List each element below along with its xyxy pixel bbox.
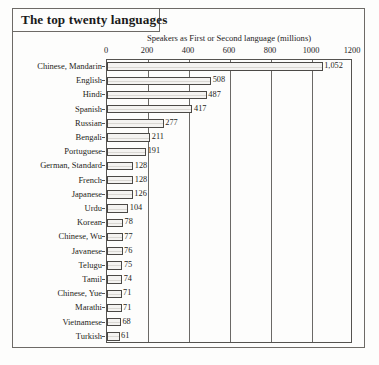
bar [107,275,122,283]
bar-hatch-line [108,194,132,195]
bar-hatch-line [108,308,121,309]
x-tick-label: 1000 [303,46,320,55]
bar-hatch-line [108,223,122,224]
x-axis-tick-labels: 020040060080010001200 [106,46,352,57]
axis-tickmark [102,123,105,124]
bar-hatch-line [108,152,145,153]
bar-row: 191 [107,145,351,159]
axis-tickmark [102,194,105,195]
axis-tickmark [102,94,105,95]
bar [107,219,123,227]
category-label: Korean [77,215,102,229]
bar-row: 77 [107,230,351,244]
bar-hatch-line [108,166,132,167]
bar-row: 128 [107,174,351,188]
bar-value-label: 68 [121,317,131,326]
bar [107,233,123,241]
category-label: Bengali [76,130,102,144]
bar [107,261,122,269]
bar [107,176,133,184]
bar-value-label: 487 [207,90,221,99]
bar [107,332,120,340]
axis-tickmark [102,165,105,166]
axis-tickmark [102,80,105,81]
bar [107,304,122,312]
category-label: Javanese [72,244,102,258]
axis-tickmark [102,180,105,181]
x-tick-label: 800 [264,46,277,55]
bar-hatch-line [108,109,191,110]
chart-page: The top twenty languages Speakers as Fir… [0,0,379,365]
x-tick-label: 200 [141,46,154,55]
bar [107,247,123,255]
bar-row: 487 [107,88,351,102]
axis-tickmark [102,151,105,152]
bar-row: 417 [107,103,351,117]
bar [107,91,207,99]
x-tick-label: 400 [182,46,195,55]
category-label: Telugu [79,258,102,272]
bar [107,148,146,156]
bar-hatch-line [108,67,322,68]
bar-row: 211 [107,131,351,145]
category-label: German, Standard [40,158,102,172]
axis-tickmark [102,109,105,110]
bar-row: 78 [107,216,351,230]
category-label: Chinese, Wu [59,229,102,243]
x-tick-label: 600 [223,46,236,55]
bar-row: 61 [107,330,351,344]
bar-hatch-line [108,251,122,252]
bar [107,162,133,170]
bar-value-label: 71 [122,288,132,297]
bar-row: 128 [107,159,351,173]
category-label: Portuguese [64,144,102,158]
bar-row: 277 [107,117,351,131]
bar-value-label: 277 [164,118,178,127]
bar-hatch-line [108,81,210,82]
axis-tickmark [102,336,105,337]
bar-value-label: 126 [133,189,147,198]
bar [107,190,133,198]
bar-hatch-line [108,138,149,139]
bar-hatch-line [108,180,132,181]
category-label: Japanese [72,187,102,201]
category-label: Chinese, Mandarin [37,59,102,73]
page-title: The top twenty languages [13,12,167,28]
chart-subtitle: Speakers as First or Second language (mi… [106,33,352,43]
bar-hatch-line [108,336,119,337]
x-tick-label: 1200 [344,46,361,55]
category-label: Urdu [85,201,102,215]
bar-value-label: 75 [122,260,132,269]
bar-value-label: 508 [211,75,225,84]
bar [107,62,323,70]
bar-hatch-line [108,95,206,96]
category-label: Tamil [82,272,102,286]
bar-row: 71 [107,287,351,301]
bar [107,133,150,141]
bar-hatch-line [108,209,127,210]
axis-tickmark [102,208,105,209]
axis-tickmark [102,236,105,237]
bar-value-label: 61 [120,331,130,340]
bar [107,290,122,298]
bar-row: 75 [107,259,351,273]
bar-row: 1,052 [107,60,351,74]
bar-hatch-line [108,280,121,281]
bar-hatch-line [108,123,163,124]
category-label: English [76,73,102,87]
category-label: Russian [75,116,102,130]
bar [107,204,128,212]
bar-value-label: 104 [128,203,142,212]
bar-value-label: 128 [133,175,147,184]
bar-hatch-line [108,237,122,238]
bar-value-label: 1,052 [323,61,343,70]
bar-hatch-line [108,294,121,295]
bar-row: 508 [107,74,351,88]
axis-tickmark [102,322,105,323]
bar [107,119,164,127]
axis-tickmark [102,307,105,308]
bar-row: 68 [107,316,351,330]
axis-tickmark [102,293,105,294]
bar-value-label: 211 [150,132,164,141]
axis-tickmark [102,137,105,138]
